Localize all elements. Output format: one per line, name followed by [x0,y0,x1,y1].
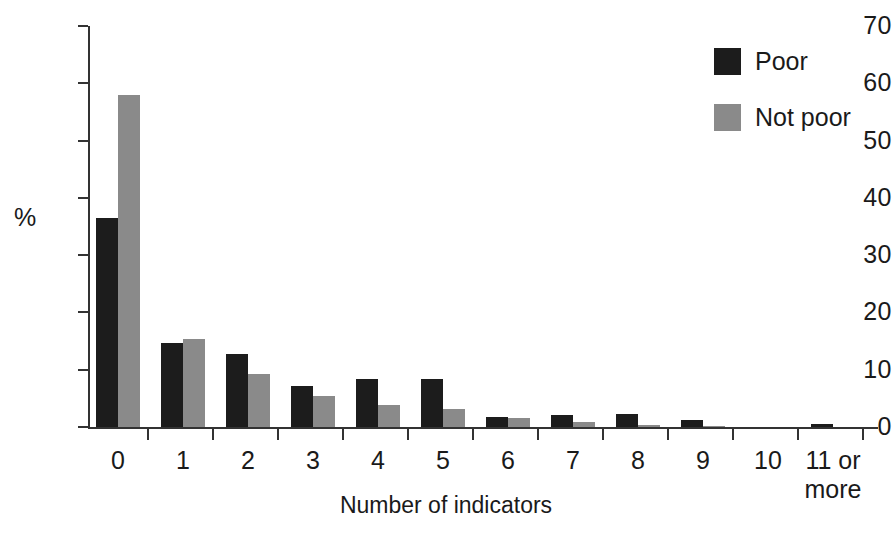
y-axis-tick [78,140,88,142]
bar-poor-8 [616,414,638,427]
x-axis-tick [147,429,149,440]
bar-chart: 706050403020100 % 01234567891011 or more… [0,0,892,537]
bar-poor-7 [551,415,573,427]
bar-not-poor-5 [443,409,465,427]
x-axis-tick [472,429,474,440]
x-axis-title: Number of indicators [0,492,892,518]
legend-label: Poor [755,48,808,75]
bar-poor-11 [811,424,833,427]
bar-not-poor-8 [638,425,660,427]
legend-label: Not poor [755,104,851,131]
x-axis-tick [407,429,409,440]
x-axis-tick [212,429,214,440]
bar-not-poor-7 [573,422,595,427]
x-axis-tick [277,429,279,440]
bar-poor-9 [681,420,703,427]
chart-legend: PoorNot poor [714,42,851,154]
bar-poor-6 [486,417,508,427]
bar-poor-2 [226,354,248,427]
y-axis-tick [78,82,88,84]
x-axis-tick [862,429,864,440]
x-axis-line [88,427,878,429]
y-axis-tick [78,426,88,428]
y-axis-title: % [14,205,36,230]
legend-item-not-poor[interactable]: Not poor [714,98,851,136]
bar-poor-3 [291,386,313,427]
bar-not-poor-1 [183,339,205,427]
y-axis-tick [78,197,88,199]
y-axis-tick [78,25,88,27]
bar-poor-1 [161,343,183,427]
y-axis-tick [78,254,88,256]
legend-item-poor[interactable]: Poor [714,42,851,80]
x-axis-tick [732,429,734,440]
bar-not-poor-3 [313,396,335,427]
bar-poor-4 [356,379,378,427]
legend-swatch-not-poor [714,104,741,131]
bar-not-poor-2 [248,374,270,427]
x-axis-tick [797,429,799,440]
legend-swatch-poor [714,48,741,75]
bar-poor-5 [421,379,443,427]
bar-not-poor-0 [118,95,140,427]
bar-poor-0 [96,218,118,427]
y-axis-tick [78,369,88,371]
bar-not-poor-6 [508,418,530,427]
x-axis-tick [342,429,344,440]
y-axis-tick [78,311,88,313]
bar-not-poor-4 [378,405,400,427]
x-axis-tick [537,429,539,440]
bar-not-poor-9 [703,426,725,427]
x-axis-tick [667,429,669,440]
x-axis-tick [602,429,604,440]
